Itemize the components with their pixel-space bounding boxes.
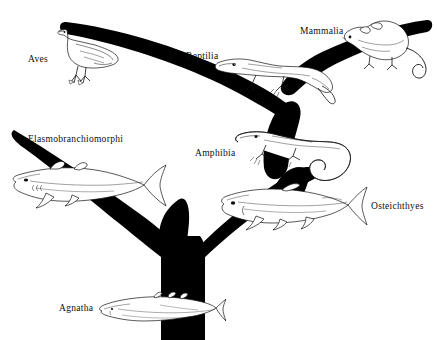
taxon-label-elasmobranchiomorphi: Elasmobranchiomorphi [28, 135, 123, 145]
jawless-fish-illustration [98, 291, 226, 327]
taxon-label-aves: Aves [28, 55, 48, 65]
taxon-label-reptilia: Reptilia [186, 52, 218, 62]
bony-fish-illustration [218, 178, 368, 234]
phylogenetic-tree-figure: Aves Reptilia Mammalia Elasmobranchiomor… [0, 0, 437, 340]
taxon-label-amphibia: Amphibia [195, 149, 235, 159]
shark-illustration [10, 155, 172, 217]
opossum-illustration [340, 12, 432, 82]
taxon-label-agnatha: Agnatha [59, 304, 93, 314]
taxon-label-osteichthyes: Osteichthyes [371, 202, 424, 212]
lizard-illustration [212, 52, 337, 107]
taxon-label-mammalia: Mammalia [300, 27, 344, 37]
bird-illustration [50, 18, 130, 90]
